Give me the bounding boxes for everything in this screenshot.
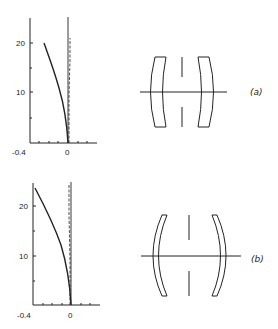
plot-b-xlabel-neg04: -0.4 — [17, 311, 31, 320]
plot-a-xlabel-neg04: -0.4 — [12, 148, 26, 157]
plot-a-xlabel-0: 0 — [65, 148, 70, 157]
lens-diagram-b — [141, 215, 241, 296]
panel-label-b: (b) — [251, 254, 264, 264]
plot-b-xlabel-0: 0 — [68, 311, 73, 320]
plot-b-ylabel-20: 20 — [19, 202, 28, 211]
plot-a-ylabel-10: 10 — [16, 88, 25, 97]
figure-canvas: 20 10 -0.4 0 (a) 20 10 -0.4 0 — [0, 0, 278, 329]
plot-a-dashed-curve — [69, 38, 70, 143]
plot-a-solid-curve — [44, 43, 68, 143]
plot-a-ylabel-20: 20 — [16, 39, 25, 48]
plot-b — [33, 182, 100, 305]
panel-label-a: (a) — [250, 87, 263, 97]
plot-a — [30, 17, 97, 143]
plot-b-solid-curve — [35, 188, 71, 305]
plot-b-ylabel-10: 10 — [19, 252, 28, 261]
lens-diagram-a — [140, 57, 227, 127]
